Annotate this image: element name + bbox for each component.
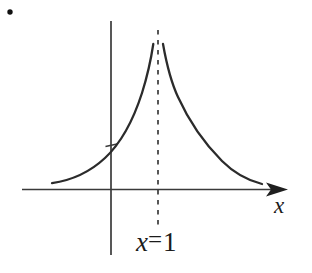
bullet-marker — [7, 9, 12, 14]
figure-canvas: x x=1 — [0, 0, 312, 273]
x-axis — [22, 183, 288, 197]
asymptote-label-equals: = — [148, 226, 162, 253]
asymptote-label: x=1 — [136, 229, 177, 256]
curve-left-branch — [52, 44, 153, 183]
asymptote-label-variable: x — [136, 227, 148, 257]
asymptote-label-value: 1 — [163, 227, 177, 257]
x-axis-label: x — [274, 194, 284, 217]
curve-right-branch — [163, 44, 262, 184]
